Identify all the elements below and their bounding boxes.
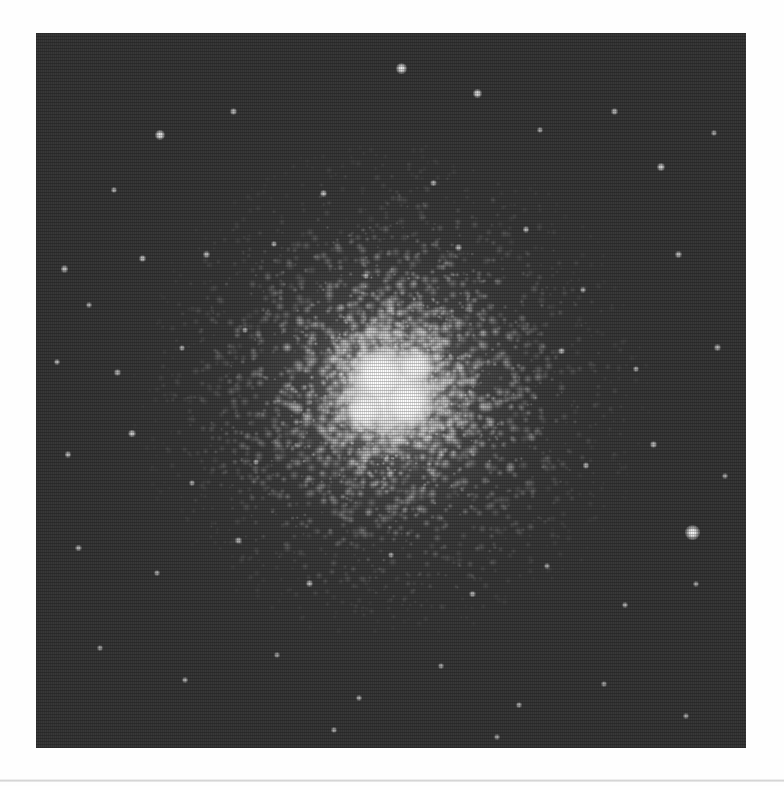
globular-cluster-photograph	[36, 33, 746, 748]
page-separator-rule	[0, 779, 784, 782]
page-canvas	[0, 0, 784, 786]
cluster-star-grain	[131, 131, 651, 651]
